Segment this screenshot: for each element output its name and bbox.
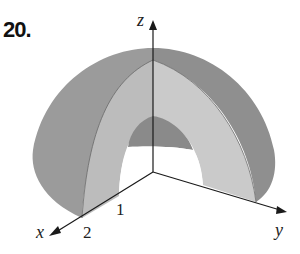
x-tick-1: 1 [116, 200, 125, 220]
hollow-opening [119, 146, 203, 196]
x-tick-2: 2 [83, 223, 92, 243]
problem-number: 20. [3, 17, 31, 43]
z-axis-arrow-icon [149, 20, 157, 30]
hemispherical-shell-diagram [0, 0, 300, 254]
y-axis-arrow-icon [276, 206, 287, 214]
x-axis-arrow-icon [49, 226, 61, 236]
x-axis-label: x [36, 222, 44, 243]
y-axis-label: y [275, 220, 283, 241]
solid-region-figure [0, 0, 300, 254]
z-axis-label: z [137, 10, 144, 31]
